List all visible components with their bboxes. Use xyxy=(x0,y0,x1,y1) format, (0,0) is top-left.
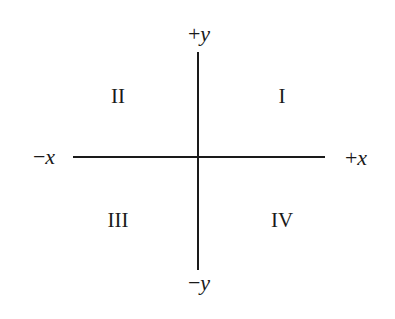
variable: x xyxy=(45,144,55,169)
quadrant-4-label: IV xyxy=(271,208,293,233)
variable: y xyxy=(200,21,210,46)
sign: − xyxy=(33,144,45,169)
variable: x xyxy=(357,145,367,170)
sign: + xyxy=(345,145,357,170)
negative-x-label: −x xyxy=(33,144,55,170)
quadrant-1-label: I xyxy=(279,84,286,109)
sign: − xyxy=(188,270,200,295)
quadrant-diagram: +y −y −x +x II I III IV xyxy=(0,0,395,319)
positive-y-label: +y xyxy=(188,21,210,47)
quadrant-2-label: II xyxy=(111,84,125,109)
positive-x-label: +x xyxy=(345,145,367,171)
variable: y xyxy=(200,270,210,295)
quadrant-3-label: III xyxy=(108,208,129,233)
sign: + xyxy=(188,21,200,46)
negative-y-label: −y xyxy=(188,270,210,296)
